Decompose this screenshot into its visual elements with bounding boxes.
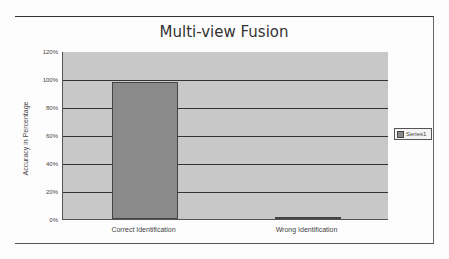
legend-label: Series1 [406,131,426,137]
x-tick-label: Wrong Identification [247,226,367,233]
x-tick-label: Correct Identification [84,226,204,233]
y-tick-label: 20% [28,189,58,195]
y-tick-label: 40% [28,161,58,167]
bar [112,82,178,219]
y-tick-label: 60% [28,133,58,139]
chart-title: Multi-view Fusion [15,23,433,41]
y-tick-label: 100% [28,77,58,83]
y-tick-label: 120% [28,49,58,55]
y-tick-label: 0% [28,217,58,223]
bar [275,217,341,219]
legend: Series1 [394,128,432,140]
y-tick-label: 80% [28,105,58,111]
legend-swatch-icon [397,131,404,138]
plot-area [62,52,388,220]
